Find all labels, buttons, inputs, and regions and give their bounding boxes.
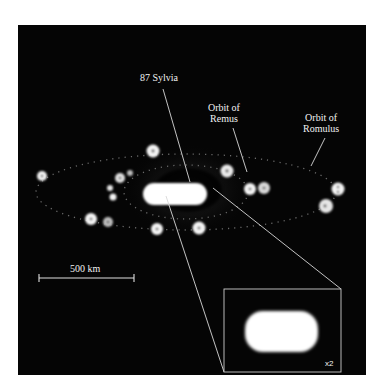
inset-magnification-label: x2 — [325, 358, 333, 369]
remus-label-line1: Orbit of — [208, 102, 240, 113]
romulus-label-line1: Orbit of — [303, 112, 339, 123]
label-87-sylvia: 87 Sylvia — [140, 72, 178, 83]
sylvia-primary-body — [143, 183, 207, 205]
romulus-label-line2: Romulus — [303, 123, 339, 134]
astronomical-image-panel: 87 Sylvia Orbit of Remus Orbit of Romulu… — [18, 25, 366, 375]
scale-bar — [39, 274, 134, 282]
label-orbit-of-romulus: Orbit of Romulus — [303, 112, 339, 134]
scale-bar-label: 500 km — [70, 263, 100, 274]
remus-label-line2: Remus — [208, 113, 240, 124]
label-orbit-of-remus: Orbit of Remus — [208, 102, 240, 124]
asteroid-system-graphic — [18, 25, 366, 375]
inset-sylvia-enlarged — [245, 311, 318, 352]
